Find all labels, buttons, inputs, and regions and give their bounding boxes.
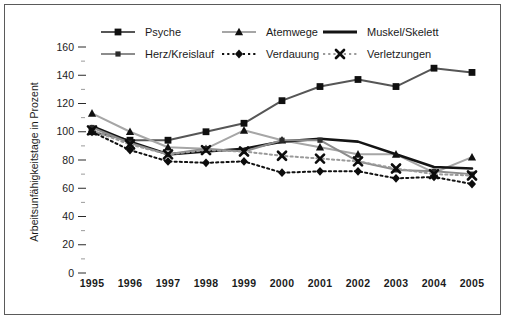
legend-item-psyche[interactable]: Psyche <box>101 26 181 38</box>
legend-label: Muskel/Skelett <box>367 26 439 38</box>
data-point <box>354 167 362 176</box>
legend-label: Verletzungen <box>367 48 431 60</box>
data-point <box>355 76 362 83</box>
y-tick-label: 20 <box>62 238 74 250</box>
series-muskel-skelett <box>92 126 472 168</box>
y-tick-label: 40 <box>62 210 74 222</box>
x-axis: 1995199619971998199920002001200220032004… <box>80 277 485 289</box>
legend-label: Psyche <box>145 26 181 38</box>
x-tick-label: 2001 <box>308 277 333 289</box>
x-tick-label: 1998 <box>194 277 219 289</box>
data-point <box>392 174 400 183</box>
data-point <box>278 168 286 177</box>
data-point <box>88 109 96 117</box>
y-tick-label: 0 <box>68 267 74 279</box>
y-tick-label: 100 <box>56 125 74 137</box>
data-point <box>241 120 248 127</box>
data-point <box>468 153 476 161</box>
x-tick-label: 2004 <box>422 277 447 289</box>
series-line <box>92 68 472 140</box>
x-tick-label: 1996 <box>118 277 143 289</box>
legend-item-verletzungen[interactable]: Verletzungen <box>323 48 431 60</box>
legend-marker <box>115 51 120 56</box>
legend-marker <box>115 29 122 36</box>
x-tick-label: 2003 <box>384 277 409 289</box>
data-point <box>393 83 400 90</box>
y-axis: 020406080100120140160 <box>56 41 86 279</box>
legend-marker <box>336 50 344 58</box>
x-tick-label: 1997 <box>156 277 181 289</box>
data-point <box>431 65 438 72</box>
legend-marker <box>235 50 243 59</box>
legend-label: Atemwege <box>266 26 318 38</box>
legend-label: Herz/Kreislauf <box>145 48 215 60</box>
y-tick-label: 120 <box>56 97 74 109</box>
data-point <box>240 157 248 166</box>
legend-item-verdauung[interactable]: Verdauung <box>222 48 319 60</box>
data-point <box>240 126 248 134</box>
data-point <box>317 138 322 143</box>
data-point <box>165 137 172 144</box>
data-point <box>202 158 210 167</box>
legend-item-herz-kreislauf[interactable]: Herz/Kreislauf <box>101 48 215 60</box>
y-tick-label: 80 <box>62 154 74 166</box>
figure: 020406080100120140160 199519961997199819… <box>0 0 505 319</box>
x-tick-label: 1999 <box>232 277 257 289</box>
legend-item-muskel-skelett[interactable]: Muskel/Skelett <box>323 26 439 38</box>
legend-item-atemwege[interactable]: Atemwege <box>222 26 318 38</box>
data-point <box>316 167 324 176</box>
series-line <box>92 126 472 168</box>
x-tick-label: 2000 <box>270 277 295 289</box>
x-tick-label: 2005 <box>460 277 485 289</box>
data-point <box>468 180 476 189</box>
series-line <box>92 128 472 175</box>
y-tick-label: 160 <box>56 41 74 53</box>
y-tick-label: 60 <box>62 182 74 194</box>
y-tick-label: 140 <box>56 69 74 81</box>
data-point <box>279 97 286 104</box>
data-point <box>279 138 284 143</box>
line-chart: 020406080100120140160 199519961997199819… <box>0 0 505 319</box>
x-tick-label: 2002 <box>346 277 371 289</box>
data-point <box>469 69 476 76</box>
chart-canvas: 020406080100120140160 199519961997199819… <box>0 0 505 319</box>
legend-label: Verdauung <box>266 48 319 60</box>
y-axis-title: Arbeitsunfähigkeitstage in Prozent <box>28 82 40 241</box>
data-point <box>203 128 210 135</box>
chart-legend: PsycheAtemwegeMuskel/SkelettHerz/Kreisla… <box>101 26 439 60</box>
data-point <box>317 83 324 90</box>
series-layer <box>88 65 476 189</box>
series-psyche <box>89 65 476 144</box>
x-tick-label: 1995 <box>80 277 105 289</box>
